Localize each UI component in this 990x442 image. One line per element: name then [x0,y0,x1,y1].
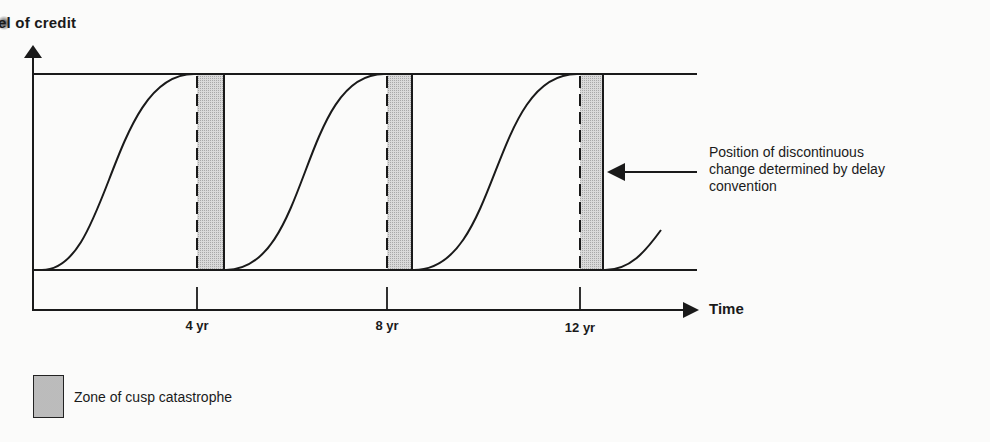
credit-curve-4-partial [605,230,661,270]
y-axis-arrowhead [24,45,42,58]
annotation-line-2: change determined by delay [709,161,969,178]
annotation-line-3: convention [709,178,969,195]
tick-label-4yr: 4 yr [185,318,208,333]
tick-label-8yr: 8 yr [375,318,398,333]
legend-label: Zone of cusp catastrophe [74,389,232,405]
annotation-arrowhead [607,163,625,181]
annotation-text: Position of discontinuous change determi… [709,144,969,195]
credit-curve-3 [414,74,577,270]
x-axis-label: Time [709,300,744,317]
time-axis-arrowhead [683,302,699,318]
cusp-zone-2 [387,74,412,270]
cusp-zone-1 [197,74,224,270]
credit-curve-2 [226,74,384,270]
legend: Zone of cusp catastrophe [33,375,232,418]
annotation-line-1: Position of discontinuous [709,144,969,161]
tick-label-12yr: 12 yr [565,320,595,335]
cusp-zones [197,74,603,270]
cusp-zone-3 [580,74,603,270]
legend-swatch-cusp-zone [33,375,64,418]
credit-curve-1 [42,74,194,270]
